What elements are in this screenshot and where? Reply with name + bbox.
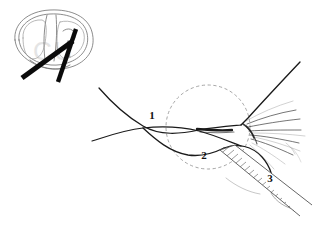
- callout-label-3: 3: [267, 172, 273, 184]
- figure-canvas: CU: [0, 0, 329, 231]
- upper-lid-crease: [99, 88, 241, 133]
- instrument-edge-lower: [220, 150, 300, 216]
- lower-cheek-faint: [226, 178, 260, 194]
- callout-label-2: 2: [201, 149, 207, 161]
- canthal-tendon-shadow: [200, 132, 234, 133]
- callout-label-1: 1: [149, 109, 155, 121]
- lateral-canthal-tendon: [197, 129, 232, 130]
- medical-figure: CU: [0, 0, 329, 231]
- magnified-canthal-region: 1 2 3: [92, 62, 314, 231]
- stray-mark-b: [292, 148, 301, 162]
- instrument-edge-upper: [235, 145, 312, 205]
